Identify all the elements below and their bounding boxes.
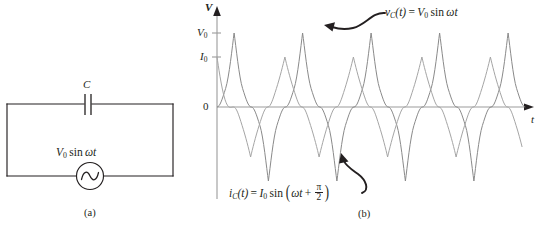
current-argument: (t)	[237, 187, 248, 199]
y-tick-v0-sub: 0	[204, 31, 208, 40]
y-axis	[213, 6, 221, 199]
current-phase-denominator: 2	[315, 193, 324, 202]
y-axis-label: V	[205, 2, 212, 13]
voltage-angle-argument: ωt	[446, 6, 457, 18]
current-equals: =	[251, 187, 258, 199]
current-amplitude-subscript: 0	[263, 192, 267, 201]
current-angle-argument: ωt	[291, 187, 302, 199]
y-tick-i0-sub: 0	[204, 55, 208, 64]
x-axis-label: t	[531, 114, 534, 125]
annotation-voltage-equation: vC(t) = V0 sin ωt	[385, 7, 458, 20]
panel-b-caption: (b)	[358, 209, 370, 220]
y-tick-label-v0: V0	[197, 27, 207, 40]
voltage-argument: (t)	[395, 6, 406, 18]
current-paren-open: (	[286, 184, 290, 202]
voltage-equals: =	[409, 6, 416, 18]
current-phase-fraction: π2	[315, 183, 324, 203]
current-function: sin	[269, 187, 282, 199]
y-tick-v0-base: V	[197, 26, 204, 38]
y-tick-label-zero: 0	[203, 101, 209, 112]
voltage-amplitude-subscript: 0	[424, 11, 428, 20]
leader-arrow-current	[339, 153, 366, 193]
current-plus-sign: +	[305, 187, 312, 199]
leader-arrow-voltage	[324, 13, 385, 32]
y-tick-label-i0: I0	[200, 51, 207, 64]
current-paren-close: )	[325, 184, 329, 202]
figure-ac-capacitor-circuit: C V0 sin ωt (a)	[0, 0, 544, 227]
annotation-current-equation: iC(t) = I0 sin (ωt + π2)	[229, 184, 330, 204]
voltage-function: sin	[431, 6, 444, 18]
